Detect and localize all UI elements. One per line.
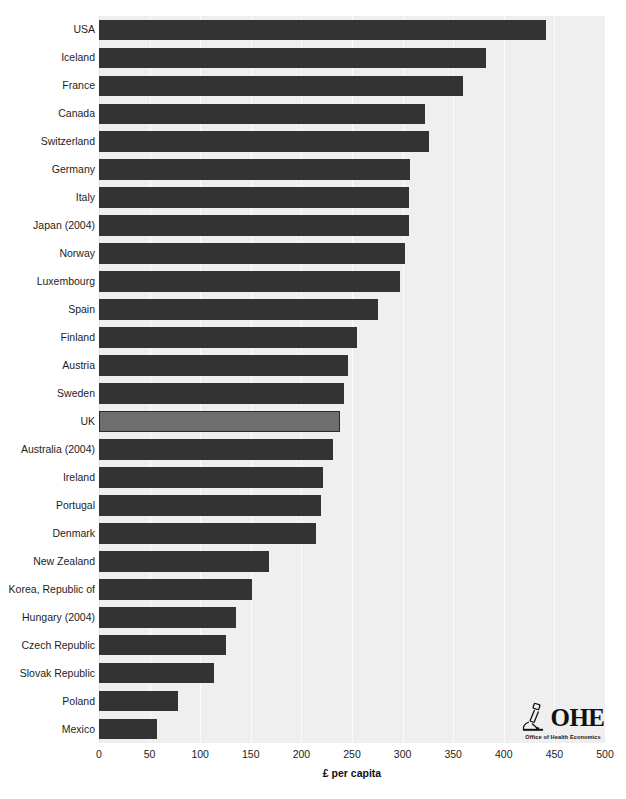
- x-axis-tick-label: 500: [596, 748, 614, 760]
- bar-row: [99, 523, 605, 544]
- bar: [99, 215, 409, 236]
- bar: [99, 411, 340, 432]
- bar: [99, 355, 348, 376]
- bar-row: [99, 159, 605, 180]
- y-axis-labels: USAIcelandFranceCanadaSwitzerlandGermany…: [0, 16, 95, 743]
- bar-row: [99, 579, 605, 600]
- bar-row: [99, 495, 605, 516]
- bar-row: [99, 104, 605, 125]
- y-axis-label: UK: [80, 416, 95, 427]
- bar-row: [99, 411, 605, 432]
- bar: [99, 719, 157, 740]
- y-axis-label: Norway: [59, 248, 95, 259]
- y-axis-label: Korea, Republic of: [9, 584, 95, 595]
- bar: [99, 383, 344, 404]
- bar-row: [99, 635, 605, 656]
- y-axis-label: Germany: [52, 164, 95, 175]
- x-axis-tick-label: 350: [444, 748, 462, 760]
- bar-row: [99, 20, 605, 41]
- bar: [99, 579, 252, 600]
- bar: [99, 439, 333, 460]
- bar: [99, 20, 546, 41]
- y-axis-label: Ireland: [63, 472, 95, 483]
- y-axis-label: Italy: [76, 192, 95, 203]
- y-axis-label: Japan (2004): [33, 220, 95, 231]
- x-axis-tick-label: 100: [191, 748, 209, 760]
- bar: [99, 327, 357, 348]
- y-axis-label: Switzerland: [41, 136, 95, 147]
- bar-row: [99, 607, 605, 628]
- bar-row: [99, 719, 605, 740]
- bar: [99, 271, 400, 292]
- bar-row: [99, 327, 605, 348]
- bar: [99, 691, 178, 712]
- bar-row: [99, 355, 605, 376]
- bar: [99, 159, 410, 180]
- y-axis-label: Canada: [58, 108, 95, 119]
- bar: [99, 299, 378, 320]
- x-axis-tick-label: 0: [96, 748, 102, 760]
- y-axis-label: Luxembourg: [37, 276, 95, 287]
- bar: [99, 495, 321, 516]
- bar: [99, 635, 226, 656]
- bar-row: [99, 663, 605, 684]
- y-axis-label: Slovak Republic: [20, 668, 95, 679]
- bar-row: [99, 48, 605, 69]
- bar-row: [99, 76, 605, 97]
- y-axis-label: USA: [73, 24, 95, 35]
- x-axis-tick-label: 450: [546, 748, 564, 760]
- bar: [99, 607, 236, 628]
- y-axis-label: Poland: [62, 696, 95, 707]
- x-axis-tick-label: 200: [293, 748, 311, 760]
- bar-row: [99, 383, 605, 404]
- bar-row: [99, 299, 605, 320]
- bar-row: [99, 551, 605, 572]
- x-axis-tick-label: 300: [394, 748, 412, 760]
- y-axis-label: Hungary (2004): [22, 612, 95, 623]
- bar-chart: USAIcelandFranceCanadaSwitzerlandGermany…: [0, 0, 626, 799]
- bar: [99, 551, 269, 572]
- y-axis-label: Finland: [61, 332, 95, 343]
- bar-row: [99, 271, 605, 292]
- bar: [99, 48, 486, 69]
- x-axis-title: £ per capita: [99, 767, 605, 779]
- y-axis-label: Denmark: [52, 528, 95, 539]
- bar: [99, 187, 409, 208]
- bar-row: [99, 131, 605, 152]
- bar-row: [99, 691, 605, 712]
- y-axis-label: Sweden: [57, 388, 95, 399]
- bar: [99, 104, 425, 125]
- bar-row: [99, 215, 605, 236]
- x-axis-tick-label: 250: [343, 748, 361, 760]
- bar: [99, 76, 463, 97]
- y-axis-label: Iceland: [61, 52, 95, 63]
- y-axis-label: Portugal: [56, 500, 95, 511]
- bar: [99, 467, 323, 488]
- y-axis-label: Czech Republic: [21, 640, 95, 651]
- y-axis-label: France: [62, 80, 95, 91]
- bar-rows: [99, 16, 605, 743]
- bar-row: [99, 187, 605, 208]
- y-axis-label: Spain: [68, 304, 95, 315]
- plot-area: [99, 16, 605, 743]
- bar-row: [99, 439, 605, 460]
- bar-row: [99, 467, 605, 488]
- bar: [99, 523, 316, 544]
- y-axis-label: Mexico: [62, 724, 95, 735]
- bar: [99, 243, 405, 264]
- x-axis-tick-label: 150: [242, 748, 260, 760]
- x-axis-tick-label: 400: [495, 748, 513, 760]
- y-axis-label: New Zealand: [33, 556, 95, 567]
- bar-row: [99, 243, 605, 264]
- y-axis-label: Austria: [62, 360, 95, 371]
- y-axis-label: Australia (2004): [21, 444, 95, 455]
- x-axis-tick-label: 50: [144, 748, 156, 760]
- bar: [99, 131, 429, 152]
- bar: [99, 663, 214, 684]
